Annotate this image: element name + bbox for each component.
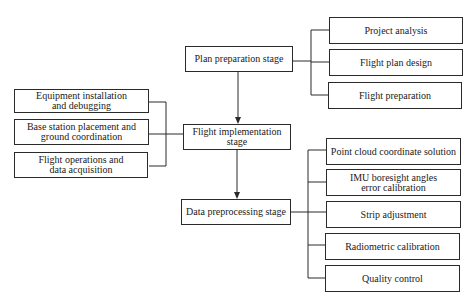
step-project-analysis: Project analysis [329,17,463,44]
step-flight-preparation: Flight preparation [328,82,462,109]
step-equipment-installation: Equipment installation and debugging [14,89,149,113]
stage-label: Flight implementation stage [192,127,282,147]
stage-label: Plan preparation stage [195,54,284,64]
step-flight-plan-design: Flight plan design [329,49,463,76]
step-label: IMU boresight angles error calibration [343,173,444,193]
step-label: Equipment installation and debugging [31,91,132,111]
step-label: Flight preparation [359,91,431,101]
step-label: Quality control [362,274,423,284]
step-label: Point cloud coordinate solution [331,147,456,157]
step-label: Strip adjustment [361,210,427,220]
step-label: Base station placement and ground coordi… [23,122,140,142]
arrowhead-icon [235,117,241,124]
step-base-station-placement: Base station placement and ground coordi… [14,119,149,145]
step-quality-control: Quality control [325,265,460,292]
step-imu-boresight-calibration: IMU boresight angles error calibration [326,169,461,196]
step-label: Project analysis [364,26,427,36]
step-label: Flight operations and data acquisition [37,155,125,175]
step-label: Flight plan design [360,58,432,68]
stage-data-preprocessing: Data preprocessing stage [181,199,291,225]
step-label: Radiometric calibration [345,242,440,252]
step-point-cloud-coordinate: Point cloud coordinate solution [326,138,461,165]
step-radiometric-calibration: Radiometric calibration [325,233,460,260]
stage-flight-implementation: Flight implementation stage [183,124,291,150]
step-flight-operations: Flight operations and data acquisition [14,152,148,178]
arrowhead-icon [234,192,240,199]
stage-plan-preparation: Plan preparation stage [185,46,293,72]
step-strip-adjustment: Strip adjustment [326,201,461,228]
stage-label: Data preprocessing stage [186,207,286,217]
